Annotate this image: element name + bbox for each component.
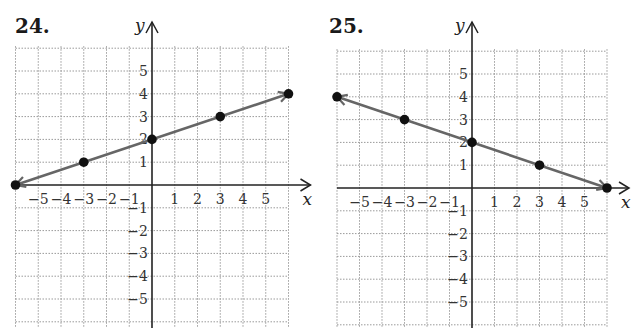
y-tick-label: 5 bbox=[139, 63, 148, 79]
x-tick-label: 5 bbox=[261, 191, 270, 207]
y-tick-label: −1 bbox=[447, 203, 468, 219]
y-tick-label: 3 bbox=[459, 112, 468, 128]
y-tick-label: −2 bbox=[447, 226, 468, 242]
data-point bbox=[602, 183, 612, 193]
y-tick-label: 5 bbox=[459, 66, 468, 82]
x-tick-label: 5 bbox=[580, 194, 589, 210]
x-tick-label: −4 bbox=[51, 191, 72, 207]
x-tick-label: −3 bbox=[73, 191, 94, 207]
data-point bbox=[147, 135, 157, 145]
y-tick-label: 3 bbox=[139, 109, 148, 125]
x-tick-label: 3 bbox=[535, 194, 544, 210]
x-tick-label: 4 bbox=[239, 191, 248, 207]
x-tick-label: −2 bbox=[417, 194, 438, 210]
x-axis-label: x bbox=[621, 192, 631, 212]
x-tick-label: −5 bbox=[28, 191, 49, 207]
y-tick-label: 2 bbox=[459, 134, 468, 150]
y-tick-label: −5 bbox=[447, 294, 468, 310]
axes: xy bbox=[337, 15, 631, 328]
coordinate-plane-25: xy−5−4−3−2−11234554321−1−2−3−4−5 bbox=[320, 0, 631, 328]
x-tick-label: 2 bbox=[193, 191, 202, 207]
y-tick-label: −4 bbox=[127, 268, 148, 284]
x-tick-label: 1 bbox=[170, 191, 179, 207]
y-tick-label: −3 bbox=[447, 248, 468, 264]
y-tick-label: −3 bbox=[127, 245, 148, 261]
y-tick-label: 2 bbox=[139, 131, 148, 147]
data-point bbox=[535, 160, 545, 170]
data-point bbox=[284, 89, 294, 99]
data-point bbox=[332, 92, 342, 102]
graph-25: 25. xy−5−4−3−2−11234554321−1−2−3−4−5 bbox=[320, 0, 631, 328]
x-tick-label: 1 bbox=[490, 194, 499, 210]
data-point bbox=[11, 180, 21, 190]
y-tick-label: −5 bbox=[127, 291, 148, 307]
x-tick-label: −5 bbox=[349, 194, 370, 210]
coordinate-plane-24: xy−5−4−3−2−11234554321−1−2−3−4−5 bbox=[0, 0, 315, 328]
y-tick-label: −4 bbox=[447, 271, 468, 287]
data-point bbox=[467, 138, 477, 148]
axes: xy bbox=[16, 15, 313, 328]
x-tick-label: 2 bbox=[513, 194, 522, 210]
x-tick-label: −2 bbox=[96, 191, 117, 207]
x-tick-label: 4 bbox=[558, 194, 567, 210]
y-axis-label: y bbox=[454, 15, 465, 35]
y-tick-label: 1 bbox=[139, 154, 148, 170]
y-tick-label: −2 bbox=[127, 223, 148, 239]
x-tick-label: −3 bbox=[394, 194, 415, 210]
y-tick-label: 4 bbox=[139, 86, 148, 102]
data-point bbox=[79, 157, 89, 167]
y-axis-label: y bbox=[134, 15, 145, 35]
x-tick-label: −4 bbox=[372, 194, 393, 210]
graph-24: 24. xy−5−4−3−2−11234554321−1−2−3−4−5 bbox=[0, 0, 315, 328]
y-tick-label: 1 bbox=[459, 157, 468, 173]
y-tick-label: 4 bbox=[459, 89, 468, 105]
data-point bbox=[215, 112, 225, 122]
x-axis-label: x bbox=[303, 189, 313, 209]
data-point bbox=[400, 115, 410, 125]
x-tick-label: 3 bbox=[216, 191, 225, 207]
y-tick-label: −1 bbox=[127, 200, 148, 216]
